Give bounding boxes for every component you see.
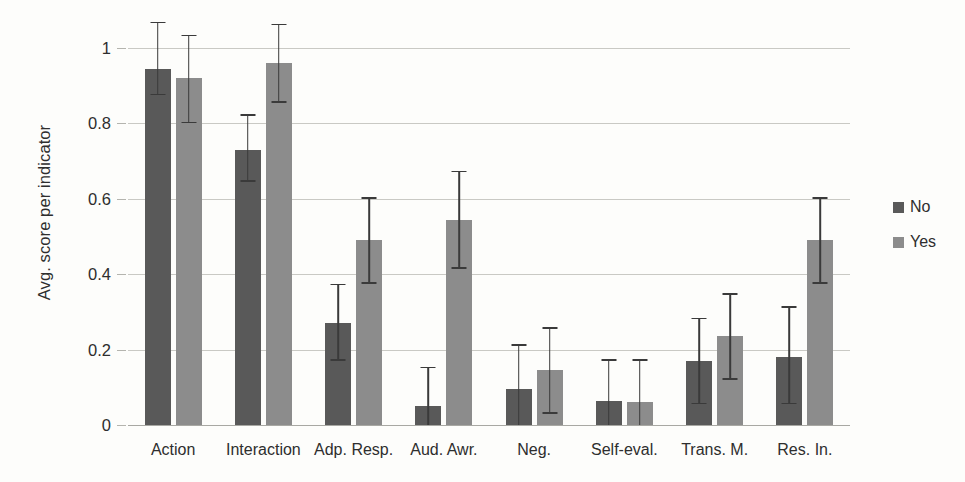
bar-yes [176, 78, 202, 425]
error-bar-cap-top [271, 24, 286, 26]
error-bar-cap-bottom [150, 94, 165, 96]
gridline [128, 48, 850, 49]
x-axis-label: Interaction [226, 441, 301, 459]
gridline [128, 123, 850, 124]
error-bar-line [428, 367, 430, 425]
x-axis-label: Action [151, 441, 195, 459]
error-bar-line [247, 114, 249, 182]
legend-swatch-icon [893, 202, 904, 213]
error-bar-cap-bottom [331, 359, 346, 361]
error-bar-cap-top [452, 171, 467, 173]
legend-label: Yes [910, 233, 936, 251]
error-bar-cap-bottom [813, 282, 828, 284]
y-tick-mark [117, 123, 126, 124]
bar-yes [266, 63, 292, 425]
error-bar-cap-bottom [542, 412, 557, 414]
y-tick-label: 0.2 [88, 340, 111, 359]
error-bar-line [729, 293, 731, 380]
error-bar-cap-top [632, 359, 647, 361]
x-axis-label: Neg. [517, 441, 551, 459]
legend-item-yes[interactable]: Yes [893, 233, 936, 251]
y-tick-label: 0.6 [88, 189, 111, 208]
error-bar-line [639, 359, 641, 425]
legend-swatch-icon [893, 237, 904, 248]
error-bar-line [518, 344, 520, 425]
error-bar-line [608, 359, 610, 425]
error-bar-cap-top [511, 344, 526, 346]
y-tick-mark [117, 48, 126, 49]
bar-no [235, 150, 261, 425]
error-bar-cap-bottom [723, 378, 738, 380]
legend-label: No [910, 198, 930, 216]
error-bar-line [789, 306, 791, 404]
error-bar-cap-top [181, 35, 196, 37]
bar-no [145, 69, 171, 425]
error-bar-cap-bottom [452, 267, 467, 269]
y-tick-label: 1 [102, 39, 111, 58]
y-tick-label: 0 [102, 416, 111, 435]
error-bar-cap-bottom [240, 180, 255, 182]
x-axis-label: Self-eval. [591, 441, 658, 459]
error-bar-cap-bottom [181, 122, 196, 124]
error-bar-cap-top [692, 318, 707, 320]
error-bar-cap-top [813, 197, 828, 199]
gridline [128, 425, 850, 426]
error-bar-cap-top [421, 367, 436, 369]
error-bar-cap-top [150, 22, 165, 24]
chart-legend: NoYes [893, 198, 936, 268]
error-bar-line [368, 197, 370, 284]
y-tick-mark [117, 199, 126, 200]
error-bar-line [459, 171, 461, 269]
error-bar-cap-bottom [782, 403, 797, 405]
x-axis-label: Trans. M. [681, 441, 748, 459]
error-bar-cap-top [240, 114, 255, 116]
error-bar-cap-top [601, 359, 616, 361]
error-bar-line [820, 197, 822, 284]
y-tick-mark [117, 274, 126, 275]
y-tick-mark [117, 350, 126, 351]
error-bar-cap-top [723, 293, 738, 295]
x-axis-label: Res. In. [777, 441, 832, 459]
x-axis-label: Adp. Resp. [314, 441, 393, 459]
error-bar-line [698, 318, 700, 405]
error-bar-line [549, 327, 551, 414]
error-bar-cap-bottom [692, 403, 707, 405]
bar-chart: Avg. score per indicator 00.20.40.60.81 … [0, 0, 965, 482]
error-bar-cap-top [542, 327, 557, 329]
plot-area: 00.20.40.60.81 [128, 48, 850, 425]
error-bar-line [157, 22, 159, 96]
error-bar-line [337, 284, 339, 361]
error-bar-cap-bottom [271, 101, 286, 103]
error-bar-line [188, 35, 190, 124]
y-tick-label: 0.8 [88, 114, 111, 133]
x-axis-label: Aud. Awr. [410, 441, 477, 459]
error-bar-cap-top [331, 284, 346, 286]
error-bar-line [278, 24, 280, 103]
error-bar-cap-bottom [362, 282, 377, 284]
error-bar-cap-top [782, 306, 797, 308]
y-axis-title: Avg. score per indicator [35, 83, 54, 343]
legend-item-no[interactable]: No [893, 198, 936, 216]
y-tick-label: 0.4 [88, 265, 111, 284]
error-bar-cap-top [362, 197, 377, 199]
y-tick-mark [117, 425, 126, 426]
